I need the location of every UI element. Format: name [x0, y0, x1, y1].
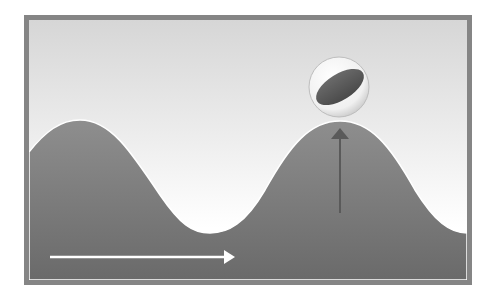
diagram-canvas — [0, 0, 498, 303]
wave-diagram — [0, 0, 498, 303]
beach-ball — [309, 57, 370, 117]
